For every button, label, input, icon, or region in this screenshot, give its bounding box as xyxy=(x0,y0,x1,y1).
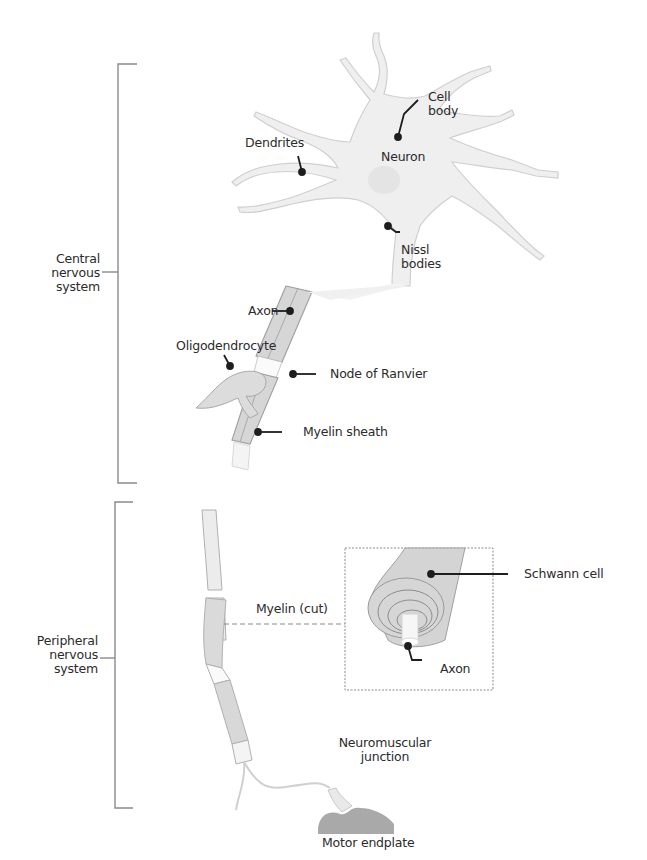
label-peripheral-nervous-system: Peripheral nervous system xyxy=(26,634,98,676)
oligodendrocyte xyxy=(196,371,266,418)
label-axon-cns: Axon xyxy=(248,304,278,318)
nucleus xyxy=(368,166,400,194)
label-motor-endplate: Motor endplate xyxy=(322,836,415,850)
schwann-inset xyxy=(345,548,493,690)
label-central-nervous-system: Central nervous system xyxy=(42,252,100,294)
pns-bracket xyxy=(100,502,133,808)
label-cell-body: Cell body xyxy=(428,90,458,118)
label-oligodendrocyte: Oligodendrocyte xyxy=(176,339,276,353)
label-neuron: Neuron xyxy=(381,150,425,164)
label-dendrites: Dendrites xyxy=(245,136,304,150)
label-axon-inset: Axon xyxy=(440,662,470,676)
axon-pns xyxy=(202,510,252,764)
label-neuromuscular-junction: Neuromuscular junction xyxy=(335,736,435,764)
motor-endplate xyxy=(318,808,394,834)
terminal-branch xyxy=(236,762,330,810)
label-schwann-cell: Schwann cell xyxy=(524,567,604,581)
cns-bracket xyxy=(102,64,137,483)
label-node-of-ranvier: Node of Ranvier xyxy=(330,367,427,381)
label-nissl-bodies: Nissl bodies xyxy=(401,243,441,271)
label-myelin-sheath: Myelin sheath xyxy=(303,425,388,439)
label-myelin-cut: Myelin (cut) xyxy=(256,602,328,616)
